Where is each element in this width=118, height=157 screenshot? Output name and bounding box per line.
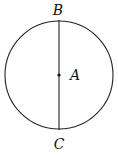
label-c: C — [54, 136, 65, 152]
center-point-a — [57, 73, 60, 76]
circle-diagram: B A C — [0, 0, 118, 157]
label-b: B — [52, 2, 63, 18]
label-a: A — [68, 67, 80, 83]
